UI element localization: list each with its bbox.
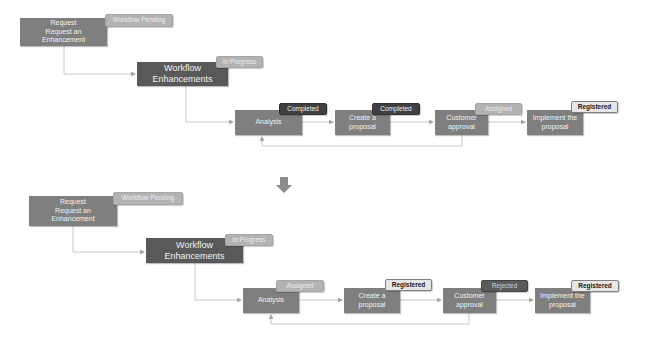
step-implement-label-1: Implement the (533, 114, 577, 123)
step-implement-proposal-status: Registered (571, 280, 619, 292)
step-create-proposal[interactable]: Create a proposal (344, 288, 400, 313)
workflow-line2: Enhancements (152, 74, 212, 85)
request-status-badge: Workflow Pending (105, 14, 173, 27)
workflow-line1: Workflow (152, 63, 212, 74)
workflow-box[interactable]: Workflow Enhancements (137, 62, 228, 86)
workflow-line2: Enhancements (164, 251, 224, 262)
request-title: Request (51, 198, 94, 207)
step-customer-label-1: Customer (454, 292, 484, 301)
step-customer-label-1: Customer (446, 114, 476, 123)
request-line3: Enhancement (51, 215, 94, 224)
step-analysis-status: Assigned (276, 280, 324, 292)
request-line2: Request an (51, 207, 94, 216)
step-implement-proposal[interactable]: Implement the proposal (527, 110, 583, 135)
request-box[interactable]: Request Request an Enhancement (20, 18, 107, 46)
request-title: Request (42, 19, 85, 28)
step-create-label-1: Create a (349, 114, 376, 123)
step-create-label-2: proposal (349, 123, 376, 132)
workflow-line1: Workflow (164, 240, 224, 251)
down-arrow-icon (276, 177, 292, 193)
step-implement-label-1: Implement the (540, 292, 584, 301)
step-implement-label-2: proposal (533, 123, 577, 132)
request-status-badge: Workflow Pending (113, 192, 183, 205)
step-customer-approval-status: Assigned (475, 103, 522, 115)
step-customer-approval-status: Rejected (481, 280, 528, 292)
step-analysis-label: Analysis (258, 296, 284, 305)
step-create-label-2: proposal (359, 301, 386, 310)
step-customer-label-2: approval (454, 301, 484, 310)
step-analysis-label: Analysis (255, 118, 281, 127)
step-create-label-1: Create a (359, 292, 386, 301)
workflow-status-badge: In Progress (225, 234, 273, 246)
workflow-status-badge: In Progress (216, 56, 263, 68)
step-create-proposal-status: Completed (372, 103, 420, 115)
request-box[interactable]: Request Request an Enhancement (29, 196, 117, 226)
step-analysis-status: Completed (279, 103, 327, 115)
step-customer-label-2: approval (446, 123, 476, 132)
step-implement-proposal-status: Registered (571, 101, 618, 113)
step-implement-label-2: proposal (540, 301, 584, 310)
step-create-proposal-status: Registered (385, 279, 432, 291)
request-line3: Enhancement (42, 36, 85, 45)
request-line2: Request an (42, 28, 85, 37)
